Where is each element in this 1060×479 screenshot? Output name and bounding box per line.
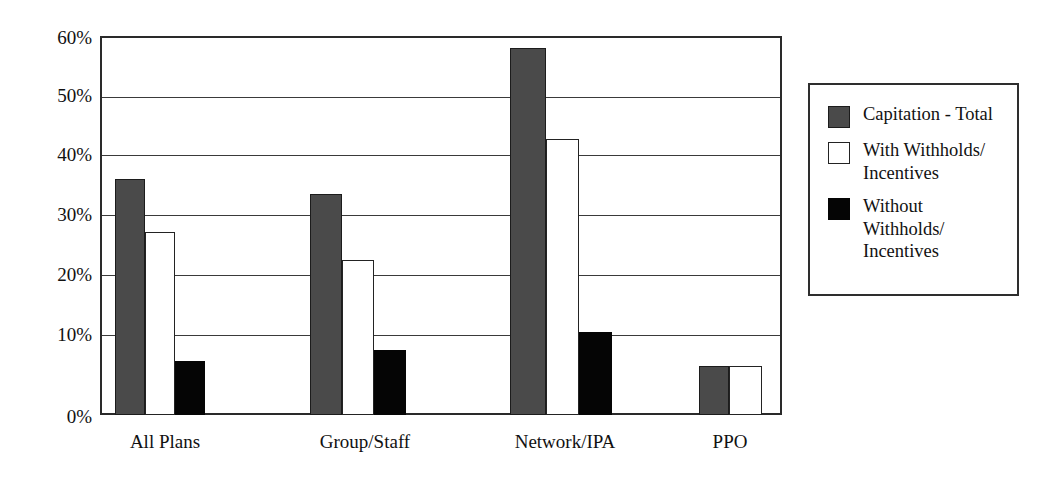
x-label-text: PPO xyxy=(713,431,748,452)
y-tick-label-0: 0% xyxy=(0,407,92,426)
y-tick-label-10: 10% xyxy=(0,325,92,344)
x-label-text: All Plans xyxy=(130,431,200,452)
y-tick-text: 30% xyxy=(57,204,92,225)
legend-label: Capitation - Total xyxy=(863,103,993,126)
x-label-text: Network/IPA xyxy=(515,431,616,452)
y-tick-text: 60% xyxy=(57,27,92,48)
legend-swatch-black-icon xyxy=(828,198,850,220)
y-tick-text: 20% xyxy=(57,264,92,285)
legend-label: With Withholds/ Incentives xyxy=(863,139,985,184)
y-tick-label-60: 60% xyxy=(0,28,92,47)
x-label-group-staff: Group/Staff xyxy=(295,432,435,451)
legend-label: Without Withholds/ Incentives xyxy=(863,195,944,263)
gridline-50 xyxy=(102,97,780,98)
legend-swatch-white-icon xyxy=(828,142,850,164)
y-tick-text: 50% xyxy=(57,85,92,106)
gridline-20 xyxy=(102,275,780,276)
chart-figure: 60% 50% 40% 30% 20% 10% 0% xyxy=(0,0,1060,479)
x-label-text: Group/Staff xyxy=(320,431,410,452)
legend-item-without-withholds: Without Withholds/ Incentives xyxy=(828,195,1017,263)
plot-area xyxy=(100,36,782,415)
y-tick-text: 10% xyxy=(57,324,92,345)
gridline-40 xyxy=(102,155,780,156)
y-tick-label-30: 30% xyxy=(0,205,92,224)
legend-item-with-withholds: With Withholds/ Incentives xyxy=(828,139,1017,184)
gridline-30 xyxy=(102,215,780,216)
legend-swatch-gray-icon xyxy=(828,106,850,128)
y-tick-text: 40% xyxy=(57,144,92,165)
x-label-ppo: PPO xyxy=(675,432,785,451)
y-tick-text: 0% xyxy=(67,406,92,427)
x-label-all-plans: All Plans xyxy=(110,432,220,451)
legend: Capitation - Total With Withholds/ Incen… xyxy=(808,83,1019,296)
y-tick-label-50: 50% xyxy=(0,86,92,105)
legend-item-capitation-total: Capitation - Total xyxy=(828,103,1017,128)
x-label-network-ipa: Network/IPA xyxy=(490,432,640,451)
gridline-10 xyxy=(102,335,780,336)
y-tick-label-40: 40% xyxy=(0,145,92,164)
y-tick-label-20: 20% xyxy=(0,265,92,284)
